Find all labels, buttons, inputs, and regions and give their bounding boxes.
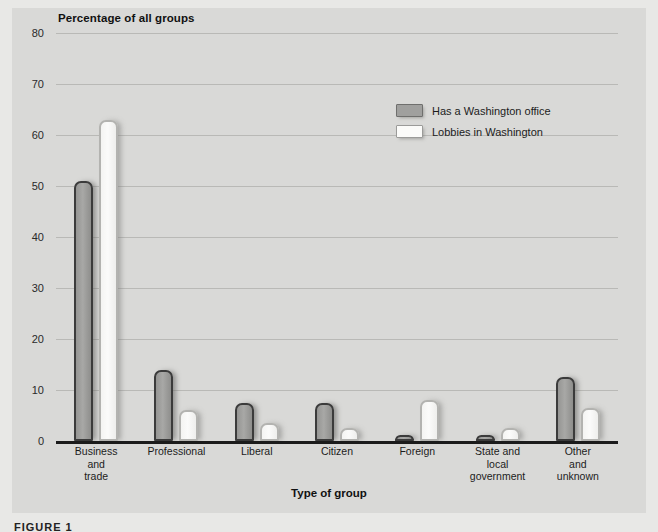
bar-0-1[interactable] bbox=[99, 120, 118, 441]
category-label-2: Liberal bbox=[217, 445, 297, 483]
category-label-0: Businessandtrade bbox=[56, 445, 136, 483]
bar-group-1 bbox=[136, 33, 216, 441]
bar-5-1[interactable] bbox=[501, 428, 520, 441]
y-axis-tick-50: 50 bbox=[4, 180, 44, 192]
x-axis-title: Type of group bbox=[0, 487, 658, 499]
bar-group-5 bbox=[457, 33, 537, 441]
bar-3-0[interactable] bbox=[315, 403, 334, 441]
y-axis-tick-10: 10 bbox=[4, 384, 44, 396]
y-axis-tick-0: 0 bbox=[4, 435, 44, 447]
category-labels: BusinessandtradeProfessionalLiberalCitiz… bbox=[56, 445, 618, 483]
chart-legend: Has a Washington office Lobbies in Washi… bbox=[396, 100, 551, 142]
category-label-4: Foreign bbox=[377, 445, 457, 483]
bar-6-1[interactable] bbox=[581, 408, 600, 441]
bars-layer bbox=[56, 33, 618, 441]
bar-group-0 bbox=[56, 33, 136, 441]
chart-title: Percentage of all groups bbox=[58, 12, 195, 24]
bar-0-0[interactable] bbox=[74, 181, 93, 441]
bar-1-0[interactable] bbox=[154, 370, 173, 441]
bar-group-3 bbox=[297, 33, 377, 441]
y-axis-tick-70: 70 bbox=[4, 78, 44, 90]
legend-label-lobbies: Lobbies in Washington bbox=[432, 126, 543, 138]
legend-swatch-dark-icon bbox=[396, 104, 423, 117]
y-axis-tick-20: 20 bbox=[4, 333, 44, 345]
legend-entry-lobbies: Lobbies in Washington bbox=[396, 121, 551, 142]
y-axis-tick-60: 60 bbox=[4, 129, 44, 141]
y-axis-tick-80: 80 bbox=[4, 27, 44, 39]
category-label-3: Citizen bbox=[297, 445, 377, 483]
bar-group-6 bbox=[538, 33, 618, 441]
x-axis-line bbox=[56, 441, 618, 444]
bar-group-2 bbox=[217, 33, 297, 441]
legend-swatch-light-icon bbox=[396, 125, 423, 138]
bar-6-0[interactable] bbox=[556, 377, 575, 441]
bar-4-1[interactable] bbox=[420, 400, 439, 441]
bar-group-4 bbox=[377, 33, 457, 441]
figure-container: Percentage of all groups 010203040506070… bbox=[0, 0, 658, 532]
bar-2-1[interactable] bbox=[260, 423, 279, 441]
category-label-5: State andlocalgovernment bbox=[457, 445, 537, 483]
plot-area: 01020304050607080 bbox=[56, 33, 618, 441]
legend-entry-office: Has a Washington office bbox=[396, 100, 551, 121]
bar-2-0[interactable] bbox=[235, 403, 254, 441]
bar-1-1[interactable] bbox=[179, 410, 198, 441]
category-label-1: Professional bbox=[136, 445, 216, 483]
y-axis-tick-30: 30 bbox=[4, 282, 44, 294]
y-axis-tick-40: 40 bbox=[4, 231, 44, 243]
figure-caption: FIGURE 1 bbox=[14, 521, 654, 532]
legend-label-office: Has a Washington office bbox=[432, 105, 551, 117]
bar-3-1[interactable] bbox=[340, 428, 359, 441]
category-label-6: Otherandunknown bbox=[538, 445, 618, 483]
